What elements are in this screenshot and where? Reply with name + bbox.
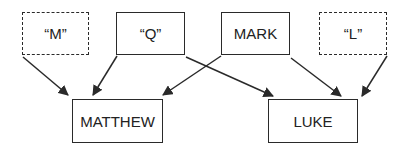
arrow-q-to-matthew bbox=[93, 56, 117, 95]
arrow-q-to-luke bbox=[186, 57, 273, 96]
node-m-source: “M” bbox=[22, 12, 89, 55]
node-label: LUKE bbox=[293, 113, 332, 130]
arrow-m-to-matthew bbox=[23, 57, 68, 95]
node-label: MARK bbox=[234, 25, 277, 42]
node-matthew: MATTHEW bbox=[72, 99, 163, 143]
node-label: “L” bbox=[344, 25, 362, 42]
arrow-mark-to-matthew bbox=[163, 56, 221, 95]
node-label: MATTHEW bbox=[80, 113, 155, 130]
node-q-source: “Q” bbox=[116, 12, 185, 55]
node-label: “Q” bbox=[140, 25, 162, 42]
node-luke: LUKE bbox=[268, 99, 358, 143]
node-label: “M” bbox=[44, 25, 67, 42]
node-l-source: “L” bbox=[319, 12, 387, 55]
node-mark: MARK bbox=[221, 12, 290, 55]
arrow-mark-to-luke bbox=[291, 58, 341, 96]
arrow-l-to-luke bbox=[362, 56, 387, 96]
diagram-canvas: “M” “Q” MARK “L” MATTHEW LUKE bbox=[0, 0, 405, 156]
